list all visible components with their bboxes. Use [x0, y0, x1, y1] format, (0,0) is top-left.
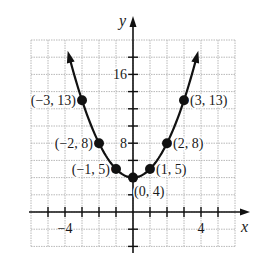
labels: xy−44816(−3, 13)(−2, 8)(−1, 5)(0, 4)(1, …	[31, 12, 248, 236]
x-tick-label: 4	[198, 221, 205, 236]
y-axis-label: y	[117, 12, 127, 30]
axes	[29, 16, 250, 253]
data-point	[179, 95, 189, 105]
data-point	[162, 138, 172, 148]
y-tick-label: 16	[113, 67, 127, 82]
data-point	[128, 173, 138, 183]
curve-arrow-left-icon	[67, 51, 75, 64]
data-point	[94, 138, 104, 148]
point-label: (3, 13)	[190, 93, 228, 109]
y-tick-label: 8	[120, 136, 127, 151]
point-label: (1, 5)	[156, 162, 187, 178]
x-axis-arrow-icon	[240, 209, 250, 216]
x-axis-label: x	[240, 218, 248, 235]
y-axis-arrow-icon	[130, 16, 137, 27]
data-point	[111, 164, 121, 174]
x-tick-label: −4	[58, 221, 73, 236]
data-point	[77, 95, 87, 105]
point-label: (−3, 13)	[31, 93, 77, 109]
data-point	[145, 164, 155, 174]
point-label: (0, 4)	[134, 184, 165, 200]
curve-arrow-right-icon	[191, 51, 199, 64]
point-label: (−1, 5)	[72, 162, 111, 178]
point-label: (−2, 8)	[55, 136, 94, 152]
parabola-chart: xy−44816(−3, 13)(−2, 8)(−1, 5)(0, 4)(1, …	[0, 0, 256, 253]
point-label: (2, 8)	[173, 136, 204, 152]
